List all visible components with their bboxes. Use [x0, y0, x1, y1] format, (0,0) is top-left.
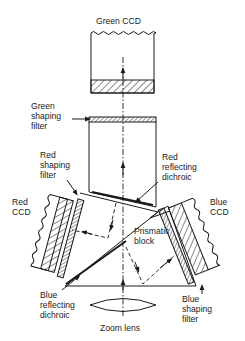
label-green-filter: Green: [31, 101, 55, 111]
label-blue-filter-line3: filter: [182, 314, 198, 324]
red-ccd: [29, 191, 84, 277]
label-red-filter-line2: shaping: [40, 160, 70, 170]
blue-dichroic-pointer: [62, 277, 78, 290]
label-red-dichroic: Red: [162, 152, 178, 162]
label-green-ccd: Green CCD: [96, 16, 141, 26]
label-red-filter-line3: filter: [40, 170, 56, 180]
label-prismatic-block-line2: block: [134, 236, 155, 246]
label-red-ccd-line2: CCD: [12, 207, 31, 217]
prismatic-block: [65, 122, 196, 286]
label-blue-ccd-line2: CCD: [210, 207, 229, 217]
label-zoom-lens: Zoom lens: [100, 323, 140, 333]
red-filter-pointer: [67, 180, 76, 193]
blue-beam-arrow-1: [135, 262, 138, 270]
label-blue-filter: Blue: [182, 294, 199, 304]
label-blue-filter-line2: shaping: [182, 304, 212, 314]
label-blue-dichroic: Blue: [40, 290, 57, 300]
label-blue-dichroic-line3: dichroic: [40, 310, 70, 320]
optical-diagram: Green CCD Green shaping filter Red CCD R…: [0, 0, 245, 341]
blue-beam-path: [126, 247, 175, 284]
label-red-dichroic-line3: dichroic: [162, 172, 192, 182]
label-green-filter-line3: filter: [31, 121, 47, 131]
label-prismatic-block: Prismatic: [134, 226, 170, 236]
green-ccd: [91, 32, 156, 94]
green-shaping-filter: [89, 117, 156, 122]
label-red-ccd: Red: [12, 197, 28, 207]
blue-reflecting-dichroic: [66, 241, 126, 284]
label-red-dichroic-line2: reflecting: [162, 162, 197, 172]
label-blue-dichroic-line2: reflecting: [40, 300, 75, 310]
label-red-filter: Red: [40, 150, 56, 160]
red-dichroic-pointer: [137, 182, 158, 201]
label-green-filter-line2: shaping: [31, 111, 61, 121]
blue-beam-arrow-2: [160, 260, 170, 268]
green-ccd-filter-glass: [91, 80, 154, 93]
label-blue-ccd: Blue: [210, 197, 227, 207]
